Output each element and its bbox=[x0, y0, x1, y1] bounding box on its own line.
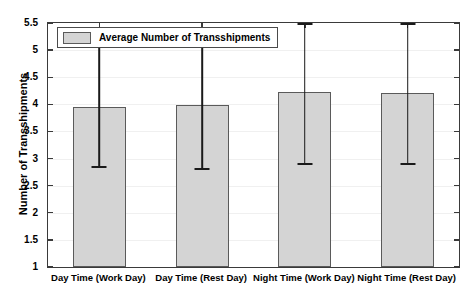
y-axis-tick-label: 3 bbox=[0, 152, 38, 163]
error-bar-stem bbox=[407, 23, 409, 165]
chart-legend: Average Number of Transshipments bbox=[57, 27, 278, 48]
y-axis-tick bbox=[48, 22, 53, 23]
chart-figure: Number of Transshipments 11.522.533.544.… bbox=[0, 0, 470, 295]
y-axis-tick-right bbox=[454, 158, 459, 159]
y-axis-title: Number of Transshipments bbox=[14, 22, 32, 266]
y-axis-tick bbox=[48, 158, 53, 159]
y-axis-tick bbox=[48, 49, 53, 50]
y-axis-tick-label: 5 bbox=[0, 44, 38, 55]
y-axis-tick-label: 1.5 bbox=[0, 233, 38, 244]
legend-swatch-icon bbox=[63, 32, 91, 44]
y-axis-tick-label: 4.5 bbox=[0, 71, 38, 82]
y-axis-tick-right bbox=[454, 131, 459, 132]
error-bar-cap-lower bbox=[195, 168, 210, 170]
y-axis-tick-label: 2 bbox=[0, 206, 38, 217]
y-axis-tick-right bbox=[454, 77, 459, 78]
x-axis-category-label: Night Time (Work Day) bbox=[253, 272, 355, 283]
y-axis-tick bbox=[48, 77, 53, 78]
y-axis-tick bbox=[48, 239, 53, 240]
legend-entry-label: Average Number of Transshipments bbox=[99, 32, 270, 43]
error-bar-cap-lower bbox=[297, 163, 312, 165]
y-axis-tick-label: 4 bbox=[0, 98, 38, 109]
error-bar-cap-lower bbox=[92, 166, 107, 168]
plot-area: Average Number of Transshipments bbox=[47, 22, 460, 268]
error-bar-stem bbox=[99, 46, 101, 168]
error-bar-stem bbox=[304, 23, 306, 165]
y-axis-tick-label: 1 bbox=[0, 261, 38, 272]
x-axis-category-label: Day Time (Rest Day) bbox=[155, 272, 247, 283]
error-bar-cap-upper bbox=[297, 23, 312, 25]
gridline bbox=[48, 50, 459, 51]
error-bar-stem bbox=[201, 40, 203, 170]
error-bar-cap-upper bbox=[400, 23, 415, 25]
y-axis-tick-right bbox=[454, 239, 459, 240]
y-axis-tick bbox=[48, 185, 53, 186]
y-axis-tick bbox=[48, 212, 53, 213]
y-axis-tick-label: 5.5 bbox=[0, 17, 38, 28]
y-axis-tick bbox=[48, 104, 53, 105]
y-axis-tick-right bbox=[454, 22, 459, 23]
y-axis-tick bbox=[48, 131, 53, 132]
gridline bbox=[48, 77, 459, 78]
y-axis-tick-label: 2.5 bbox=[0, 179, 38, 190]
y-axis-tick-right bbox=[454, 212, 459, 213]
error-bar-cap-lower bbox=[400, 163, 415, 165]
y-axis-tick-right bbox=[454, 185, 459, 186]
y-axis-tick bbox=[48, 266, 53, 267]
y-axis-tick-right bbox=[454, 266, 459, 267]
y-axis-tick-label: 3.5 bbox=[0, 125, 38, 136]
y-axis-tick-right bbox=[454, 104, 459, 105]
x-axis-category-label: Night Time (Rest Day) bbox=[357, 272, 456, 283]
y-axis-tick-right bbox=[454, 49, 459, 50]
x-axis-category-label: Day Time (Work Day) bbox=[51, 272, 146, 283]
